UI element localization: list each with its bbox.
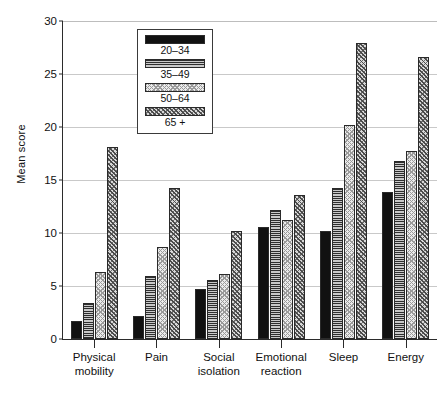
- y-axis-tick-label: 5: [51, 280, 57, 292]
- legend-label: 20–34: [145, 44, 205, 57]
- bar[interactable]: [83, 303, 94, 339]
- bar[interactable]: [356, 43, 367, 339]
- y-axis-tick-label: 15: [44, 174, 57, 186]
- x-axis-tick-label-line: Energy: [388, 351, 424, 365]
- legend-label: 65 +: [145, 116, 205, 129]
- x-axis-tick-label-line: reaction: [256, 365, 307, 379]
- bar[interactable]: [418, 57, 429, 339]
- plot-area: 051015202530 PhysicalmobilityPainSociali…: [62, 21, 437, 340]
- bar-group: Emotionalreaction: [250, 21, 312, 339]
- x-axis-tick-label-line: Social: [198, 351, 240, 365]
- bar[interactable]: [195, 289, 206, 339]
- bar[interactable]: [71, 321, 82, 339]
- y-axis-tick-label: 30: [44, 15, 57, 27]
- legend-label: 35–49: [145, 68, 205, 81]
- legend-swatch: [145, 59, 205, 68]
- legend-label: 50–64: [145, 92, 205, 105]
- bar[interactable]: [320, 231, 331, 339]
- bar[interactable]: [95, 272, 106, 339]
- bar-group: Physicalmobility: [63, 21, 125, 339]
- bar[interactable]: [169, 188, 180, 339]
- x-axis-tick-label-line: isolation: [198, 365, 240, 379]
- x-axis-tick-mark: [281, 339, 282, 348]
- x-axis-tick-mark: [343, 339, 344, 348]
- x-axis-tick-mark: [94, 339, 95, 348]
- bar[interactable]: [282, 220, 293, 339]
- legend-swatch: [145, 35, 205, 44]
- x-axis-tick-mark: [406, 339, 407, 348]
- bar[interactable]: [133, 316, 144, 339]
- x-axis-tick-label: Pain: [145, 351, 168, 365]
- x-axis-tick-label-line: Pain: [145, 351, 168, 365]
- bar-chart: Mean score 051015202530 Physicalmobility…: [0, 0, 445, 398]
- y-axis-tick-label: 10: [44, 227, 57, 239]
- bar[interactable]: [207, 280, 218, 339]
- bar[interactable]: [107, 147, 118, 339]
- bar[interactable]: [231, 231, 242, 339]
- bar-group: Sleep: [312, 21, 374, 339]
- x-axis-tick-label-line: Physical: [73, 351, 116, 365]
- bar[interactable]: [394, 161, 405, 339]
- bar[interactable]: [219, 274, 230, 339]
- bar[interactable]: [145, 276, 156, 339]
- bar[interactable]: [406, 151, 417, 339]
- y-axis-title: Mean score: [15, 99, 27, 209]
- x-axis-tick-label: Socialisolation: [198, 351, 240, 378]
- y-axis-tick-label: 20: [44, 121, 57, 133]
- x-axis-tick-mark: [219, 339, 220, 348]
- y-axis-tick-label: 0: [51, 333, 57, 345]
- legend-entry[interactable]: 65 +: [145, 107, 205, 129]
- bar-groups: PhysicalmobilityPainSocialisolationEmoti…: [63, 21, 437, 339]
- legend-swatch: [145, 83, 205, 92]
- bar[interactable]: [344, 125, 355, 339]
- bar[interactable]: [270, 210, 281, 339]
- x-axis-tick-label: Energy: [388, 351, 424, 365]
- x-axis-tick-label-line: mobility: [73, 365, 116, 379]
- legend-entry[interactable]: 35–49: [145, 59, 205, 81]
- x-axis-tick-label: Sleep: [329, 351, 358, 365]
- bar[interactable]: [332, 188, 343, 339]
- x-axis-tick-label: Emotionalreaction: [256, 351, 307, 378]
- x-axis-tick-mark: [156, 339, 157, 348]
- bar[interactable]: [258, 227, 269, 339]
- x-axis-tick-label-line: Emotional: [256, 351, 307, 365]
- legend-entry[interactable]: 50–64: [145, 83, 205, 105]
- x-axis-tick-label: Physicalmobility: [73, 351, 116, 378]
- legend-swatch: [145, 107, 205, 116]
- x-axis-tick-label-line: Sleep: [329, 351, 358, 365]
- bar[interactable]: [157, 247, 168, 339]
- y-axis-tick-label: 25: [44, 68, 57, 80]
- bar[interactable]: [382, 192, 393, 339]
- bar-group: Energy: [375, 21, 437, 339]
- legend-entry[interactable]: 20–34: [145, 35, 205, 57]
- bar[interactable]: [294, 195, 305, 339]
- legend: 20–3435–4950–6465 +: [137, 29, 213, 134]
